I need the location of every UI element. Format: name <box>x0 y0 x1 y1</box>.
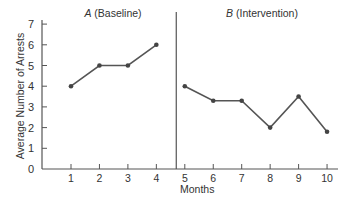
series-line-0 <box>71 45 156 86</box>
data-point <box>154 43 159 48</box>
axes <box>42 20 338 169</box>
y-tick-label: 2 <box>28 122 34 134</box>
y-tick-label: 1 <box>28 142 34 154</box>
data-point <box>325 129 330 134</box>
x-tick-label: 7 <box>239 172 245 184</box>
y-tick-label: 0 <box>28 163 34 175</box>
x-tick-label: 8 <box>267 172 273 184</box>
data-point <box>296 94 301 99</box>
phase-b-letter: B <box>226 7 233 19</box>
y-tick-label: 4 <box>28 80 34 92</box>
phase-a-letter: A <box>83 7 91 19</box>
line-chart: 01234567 12345678910 Average Number of A… <box>0 0 351 203</box>
phase-a-title: A (Baseline) <box>83 7 141 19</box>
phase-b-title: B (Intervention) <box>226 7 298 19</box>
x-tick-label: 2 <box>97 172 103 184</box>
x-axis-ticks: 12345678910 <box>68 164 333 184</box>
data-point <box>126 63 131 68</box>
data-point <box>268 125 273 130</box>
data-point <box>69 84 74 89</box>
x-axis-label: Months <box>180 183 214 195</box>
y-tick-label: 5 <box>28 60 34 72</box>
y-tick-label: 7 <box>28 18 34 30</box>
y-axis-label: Average Number of Arrests <box>14 33 26 159</box>
series-line-1 <box>185 86 327 132</box>
data-point <box>183 84 188 89</box>
data-series <box>69 43 330 135</box>
y-axis-ticks: 01234567 <box>28 18 47 175</box>
x-tick-label: 9 <box>296 172 302 184</box>
data-point <box>239 98 244 103</box>
x-tick-label: 1 <box>68 172 74 184</box>
y-tick-label: 6 <box>28 39 34 51</box>
y-tick-label: 3 <box>28 101 34 113</box>
data-point <box>97 63 102 68</box>
phase-a-label: (Baseline) <box>94 7 141 19</box>
x-tick-label: 4 <box>153 172 159 184</box>
x-tick-label: 3 <box>125 172 131 184</box>
x-tick-label: 10 <box>321 172 333 184</box>
phase-b-label: (Intervention) <box>236 7 298 19</box>
data-point <box>211 98 216 103</box>
